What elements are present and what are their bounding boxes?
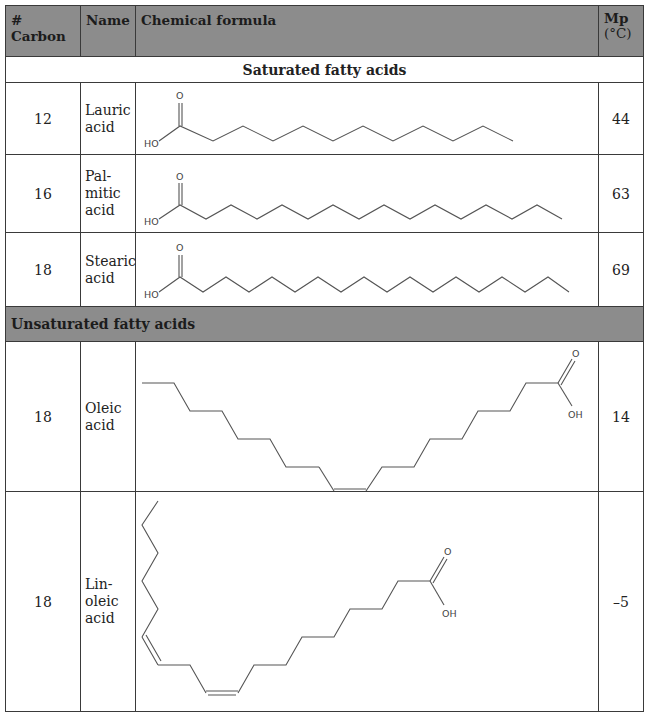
header-formula: Chemical formula bbox=[136, 6, 599, 57]
svg-text:O: O bbox=[176, 171, 183, 182]
melting-point: –5 bbox=[599, 492, 644, 712]
carbon-count: 16 bbox=[6, 155, 81, 233]
stearic-acid-structure: O HO bbox=[136, 233, 599, 307]
name-line: Stearic bbox=[85, 253, 135, 270]
svg-text:OH: OH bbox=[568, 409, 583, 420]
name-line: Lin- bbox=[85, 576, 135, 593]
name-line: acid bbox=[85, 202, 135, 219]
acid-name: Oleic acid bbox=[81, 342, 136, 492]
linoleic-acid-skeletal-icon: O OH bbox=[136, 493, 598, 711]
name-line: acid bbox=[85, 610, 135, 627]
svg-text:O: O bbox=[176, 242, 183, 253]
name-line: acid bbox=[85, 417, 135, 434]
carbon-count: 12 bbox=[6, 83, 81, 155]
svg-text:HO: HO bbox=[144, 289, 159, 300]
table-row-oleic: 18 Oleic acid O OH 14 bbox=[6, 342, 644, 492]
table-row-stearic: 18 Stearic acid O HO 69 bbox=[6, 233, 644, 307]
melting-point: 69 bbox=[599, 233, 644, 307]
name-line: mitic bbox=[85, 185, 135, 202]
linoleic-acid-structure: O OH bbox=[136, 492, 599, 712]
stearic-acid-skeletal-icon: O HO bbox=[136, 234, 598, 306]
table-row-palmitic: 16 Pal- mitic acid O HO 63 bbox=[6, 155, 644, 233]
fatty-acids-table: # Carbon Name Chemical formula Mp (°C) S… bbox=[5, 5, 644, 712]
melting-point: 44 bbox=[599, 83, 644, 155]
melting-point: 63 bbox=[599, 155, 644, 233]
section-unsaturated: Unsaturated fatty acids bbox=[6, 307, 644, 342]
carbon-count: 18 bbox=[6, 233, 81, 307]
melting-point: 14 bbox=[599, 342, 644, 492]
palmitic-acid-structure: O HO bbox=[136, 155, 599, 233]
svg-text:OH: OH bbox=[442, 608, 457, 619]
acid-name: Lin- oleic acid bbox=[81, 492, 136, 712]
name-line: oleic bbox=[85, 593, 135, 610]
acid-name: Lauric acid bbox=[81, 83, 136, 155]
name-line: acid bbox=[85, 270, 135, 287]
name-line: acid bbox=[85, 119, 135, 136]
header-row: # Carbon Name Chemical formula Mp (°C) bbox=[6, 6, 644, 57]
svg-text:O: O bbox=[176, 90, 183, 101]
section-saturated: Saturated fatty acids bbox=[6, 57, 644, 83]
lauric-acid-structure: O HO bbox=[136, 83, 599, 155]
header-carbon: # Carbon bbox=[6, 6, 81, 57]
lauric-acid-skeletal-icon: O HO bbox=[136, 84, 598, 154]
svg-text:O: O bbox=[444, 546, 451, 557]
acid-name: Pal- mitic acid bbox=[81, 155, 136, 233]
name-line: Pal- bbox=[85, 168, 135, 185]
carbon-count: 18 bbox=[6, 492, 81, 712]
acid-name: Stearic acid bbox=[81, 233, 136, 307]
svg-text:O: O bbox=[572, 348, 579, 359]
oleic-acid-skeletal-icon: O OH bbox=[136, 343, 598, 491]
carbon-count: 18 bbox=[6, 342, 81, 492]
section-title-saturated: Saturated fatty acids bbox=[6, 57, 644, 83]
name-line: Oleic bbox=[85, 400, 135, 417]
oleic-acid-structure: O OH bbox=[136, 342, 599, 492]
header-name: Name bbox=[81, 6, 136, 57]
table-row-linoleic: 18 Lin- oleic acid O OH –5 bbox=[6, 492, 644, 712]
section-title-unsaturated: Unsaturated fatty acids bbox=[6, 307, 644, 342]
header-mp: Mp (°C) bbox=[599, 6, 644, 57]
header-mp-label: Mp bbox=[604, 11, 639, 26]
svg-text:HO: HO bbox=[144, 138, 159, 149]
svg-text:HO: HO bbox=[144, 216, 159, 227]
palmitic-acid-skeletal-icon: O HO bbox=[136, 156, 598, 232]
name-line: Lauric bbox=[85, 102, 135, 119]
table-row-lauric: 12 Lauric acid O HO 44 bbox=[6, 83, 644, 155]
header-mp-unit: (°C) bbox=[604, 26, 639, 41]
